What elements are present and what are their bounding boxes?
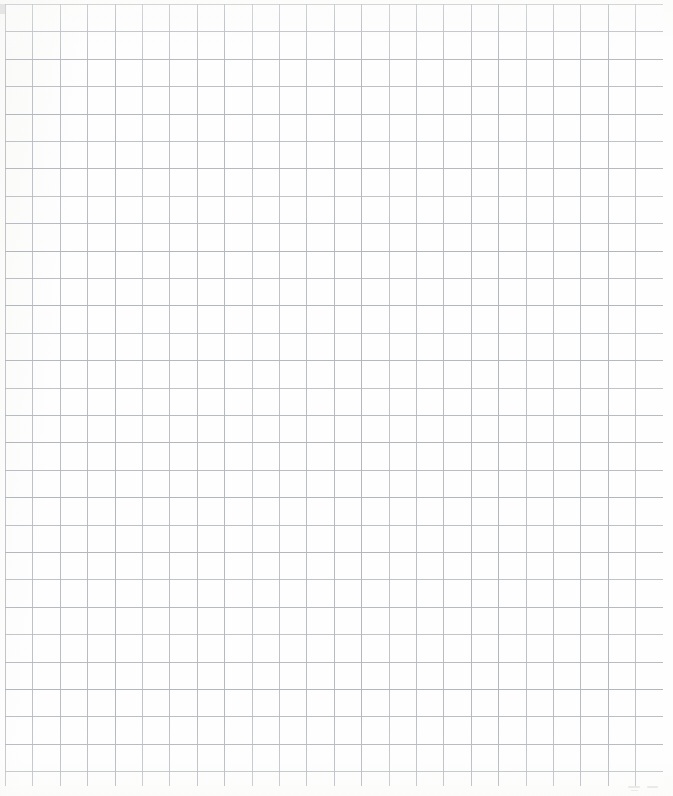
grid-line-vertical (87, 4, 88, 786)
grid-line-vertical (5, 4, 6, 786)
grid-line-vertical (306, 4, 307, 786)
graph-paper-page (0, 0, 673, 796)
grid-line-vertical (252, 4, 253, 786)
scan-artifact-mark (647, 786, 658, 788)
grid-line-vertical (389, 4, 390, 786)
grid-line-vertical (526, 4, 527, 786)
grid-line-vertical (635, 4, 636, 786)
graph-paper-grid (5, 4, 663, 786)
grid-line-vertical (60, 4, 61, 786)
grid-line-vertical (334, 4, 335, 786)
grid-line-vertical (471, 4, 472, 786)
grid-line-vertical (608, 4, 609, 786)
grid-line-vertical (498, 4, 499, 786)
grid-line-vertical (142, 4, 143, 786)
grid-line-vertical (416, 4, 417, 786)
grid-line-vertical (224, 4, 225, 786)
grid-line-vertical (580, 4, 581, 786)
grid-line-vertical (279, 4, 280, 786)
scan-artifact-mark (628, 786, 640, 788)
scan-artifact-mark (631, 790, 638, 791)
grid-line-vertical (32, 4, 33, 786)
grid-line-vertical (115, 4, 116, 786)
grid-line-vertical (169, 4, 170, 786)
grid-line-vertical (361, 4, 362, 786)
grid-line-vertical (553, 4, 554, 786)
grid-line-vertical (443, 4, 444, 786)
grid-line-vertical (197, 4, 198, 786)
